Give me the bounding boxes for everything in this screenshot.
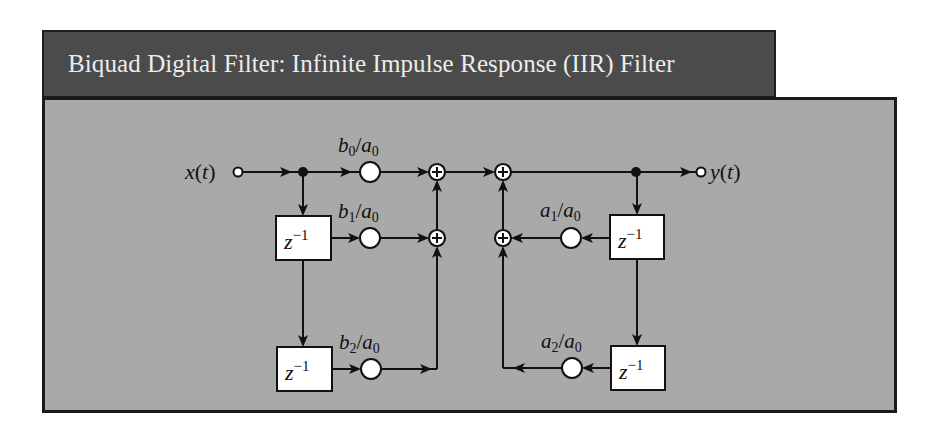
signal-lines: [243, 172, 696, 369]
gain-node-a1: [561, 228, 581, 248]
sum-node-1: [429, 164, 445, 180]
output-label: y(t): [708, 159, 741, 184]
biquad-block-diagram: z−1 z−1 z−1 z−1 x(t) y(t) b0/a0 b1/a0 b2…: [0, 0, 935, 438]
gain-label-b0: b0/a0: [338, 133, 379, 159]
gain-node-b1: [360, 228, 380, 248]
gain-label-a2: a2/a0: [541, 329, 582, 355]
input-terminal: [234, 168, 243, 177]
summing-junctions: [429, 164, 511, 246]
gain-node-a2: [562, 358, 582, 378]
gain-node-b0: [360, 162, 380, 182]
sum-node-2: [495, 164, 511, 180]
input-junction-dot: [298, 167, 308, 177]
output-junction-dot: [631, 167, 641, 177]
sum-node-3: [429, 230, 445, 246]
gain-label-b2: b2/a0: [339, 330, 380, 356]
output-terminal: [697, 168, 706, 177]
input-label: x(t): [184, 159, 216, 184]
gain-label-a1: a1/a0: [540, 198, 581, 224]
sum-node-4: [495, 230, 511, 246]
gain-label-b1: b1/a0: [338, 199, 379, 225]
gain-node-b2: [361, 359, 381, 379]
